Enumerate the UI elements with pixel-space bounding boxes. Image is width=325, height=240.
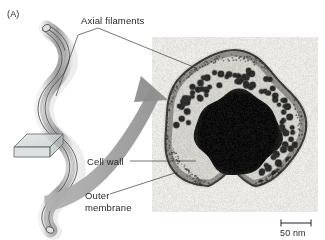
panel-label: (A)	[7, 9, 19, 19]
figure-panel-a: (A) Axial filaments Cell wall Outer memb…	[0, 0, 325, 240]
label-cell-wall: Cell wall	[87, 157, 124, 167]
leader-outer-membrane	[110, 172, 178, 194]
scale-bar	[281, 220, 311, 227]
diagram-overlay	[0, 0, 325, 240]
leader-axial-peak-left	[78, 28, 98, 35]
scale-bar-label: 50 nm	[280, 228, 306, 238]
leader-axial-to-micrograph	[98, 28, 196, 68]
label-outer-membrane-line1: Outer	[85, 191, 110, 201]
label-axial-filaments: Axial filaments	[81, 16, 145, 26]
section-plane	[14, 134, 63, 157]
label-outer-membrane-line2: membrane	[85, 203, 132, 213]
